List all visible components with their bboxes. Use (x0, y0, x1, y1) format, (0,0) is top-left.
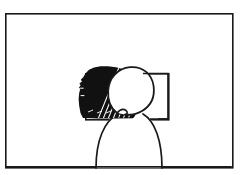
line-drawing-svg (0, 0, 240, 175)
illustration-canvas: Silhouette Head Overlapping Outlined Hea… (0, 0, 240, 175)
